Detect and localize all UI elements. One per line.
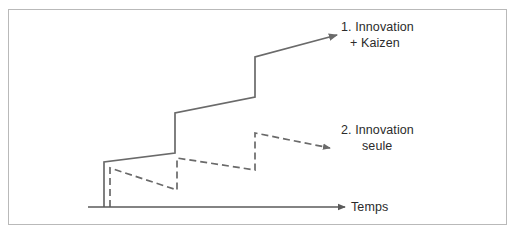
series-label-innovation-seule-line1: 2. Innovation bbox=[341, 122, 414, 138]
series-label-innovation-kaizen-line1: 1. Innovation bbox=[341, 19, 414, 35]
x-axis-label: Temps bbox=[351, 199, 388, 215]
series-label-innovation-kaizen: 1. Innovation + Kaizen bbox=[341, 19, 414, 51]
series-label-innovation-kaizen-line2: + Kaizen bbox=[341, 35, 414, 51]
series-innovation-seule-line bbox=[110, 133, 330, 207]
series-label-innovation-seule: 2. Innovation seule bbox=[341, 122, 414, 154]
diagram-canvas: 1. Innovation + Kaizen 2. Innovation seu… bbox=[0, 0, 515, 236]
series-label-innovation-seule-line2: seule bbox=[341, 138, 414, 154]
series-innovation-kaizen-line bbox=[104, 35, 337, 207]
diagram-plot bbox=[0, 0, 515, 236]
